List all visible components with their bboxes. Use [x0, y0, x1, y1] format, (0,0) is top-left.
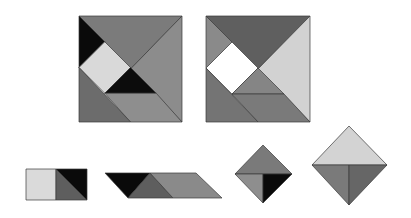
triangle-top: [312, 126, 387, 165]
rectangle-figure: [26, 169, 87, 200]
triangle-bottom-left: [235, 174, 263, 203]
tangram-canvas: [0, 0, 411, 218]
triangle-bottom-right: [263, 174, 292, 203]
parallelogram-figure: [105, 173, 222, 198]
tangram-diagram: [0, 0, 411, 218]
triangle-bottom-left: [312, 165, 349, 205]
triangle-bottom-right: [349, 165, 387, 205]
triangle-top: [235, 145, 292, 174]
square-figure-2: [206, 16, 310, 122]
square-piece: [26, 169, 56, 200]
square-figure-1: [79, 16, 182, 122]
large-diamond-figure: [312, 126, 387, 205]
small-diamond-figure: [235, 145, 292, 203]
